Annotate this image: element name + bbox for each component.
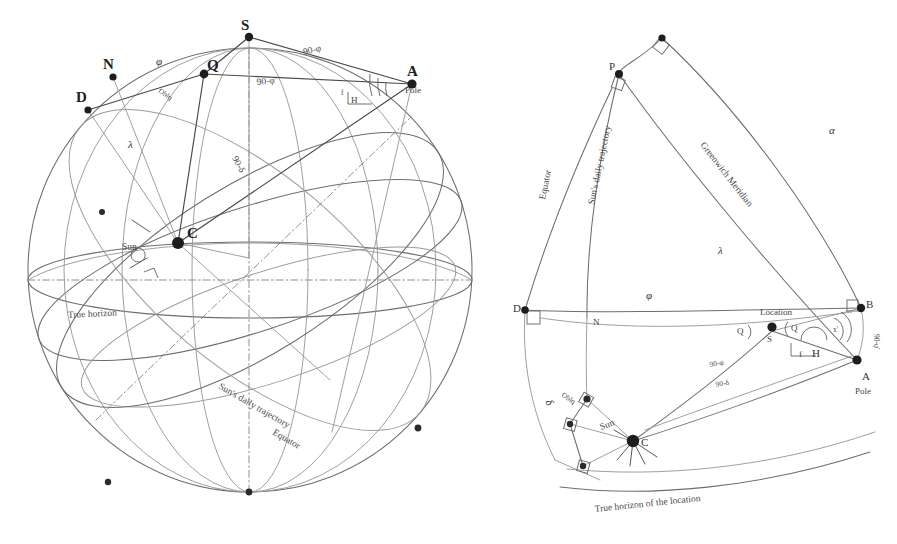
label-90-phi-left: 90-φ bbox=[302, 43, 323, 57]
point-S-right bbox=[767, 322, 776, 331]
chord-C-to-A bbox=[633, 360, 857, 441]
label-oblq-left: Oblq bbox=[157, 86, 175, 102]
sun-ray-1 bbox=[132, 220, 150, 232]
label-90-delta-left: 90-δ bbox=[230, 154, 247, 174]
label-lambda-left: λ bbox=[127, 138, 133, 150]
meridian-2 bbox=[122, 48, 378, 492]
label-equator-left: Equator bbox=[271, 427, 303, 451]
point-A-right bbox=[852, 355, 861, 364]
chord-C-center bbox=[178, 243, 249, 258]
label-phi-right: φ bbox=[646, 289, 652, 301]
label-alpha-right: α bbox=[829, 124, 835, 136]
point-D-right bbox=[521, 306, 529, 314]
point-D bbox=[84, 106, 91, 113]
point-corner2-right bbox=[580, 463, 586, 469]
true-horizon-arc-right-2 bbox=[567, 432, 875, 472]
chord-D-Q bbox=[88, 74, 204, 110]
angle-arc-icon-Q2 bbox=[785, 322, 788, 336]
chord-D-C bbox=[88, 110, 178, 243]
label-90-phi-right: 90-φ bbox=[709, 358, 725, 369]
label-delta-right: δ bbox=[543, 397, 556, 408]
chord-C-A bbox=[178, 84, 412, 243]
label-90-phi-prime-left: 90-φ' bbox=[256, 75, 277, 87]
point-apex-right bbox=[658, 34, 665, 41]
label-f-left: f bbox=[341, 88, 344, 97]
label-point-A-sub: Pole bbox=[405, 85, 421, 95]
right-angle-markers-right bbox=[527, 38, 858, 474]
obliquity-left-edge bbox=[570, 399, 587, 466]
label-point-B-right: B bbox=[866, 298, 873, 310]
meridian-1 bbox=[192, 48, 308, 492]
figure-root: S N D Q A C Pole Sun 90-φ 90-φ' 90-δ φ λ… bbox=[0, 0, 897, 544]
point-P-right bbox=[615, 70, 623, 78]
label-f-right: f bbox=[799, 349, 802, 359]
label-oblq-right: Oblq bbox=[560, 390, 578, 406]
equator-arc-lower bbox=[524, 310, 555, 460]
equator-circle bbox=[20, 142, 481, 397]
angle-arc-icon-2 bbox=[378, 78, 380, 96]
meridian-3 bbox=[64, 48, 436, 492]
label-H-right: H bbox=[812, 347, 820, 359]
label-point-Q: Q bbox=[207, 57, 219, 73]
obliquity-quad bbox=[555, 399, 633, 480]
label-sun-left: Sun bbox=[122, 242, 137, 252]
right-angle-marker-icon-D bbox=[527, 311, 540, 324]
chord-C-to-A-2 bbox=[645, 356, 852, 430]
right-angle-marker-icon-left bbox=[144, 268, 158, 278]
greenwich-meridian-lower bbox=[857, 308, 863, 360]
greenwich-meridian-arc bbox=[662, 38, 861, 308]
point-B-right bbox=[857, 304, 865, 312]
celestial-sphere-figure: S N D Q A C Pole Sun 90-φ 90-φ' 90-δ φ λ… bbox=[0, 0, 897, 544]
label-sun-right: Sun bbox=[598, 417, 616, 432]
point-obliq-right bbox=[583, 395, 590, 402]
point-corner1-right bbox=[567, 421, 573, 427]
trajectory-arc-lower bbox=[586, 318, 587, 399]
right-spherical-triangle: P D N B S A C Pole Location α λ φ Q Q 90… bbox=[513, 34, 881, 514]
oblique-axis bbox=[96, 116, 412, 420]
equator-group bbox=[20, 142, 481, 397]
label-point-C-right: C bbox=[641, 436, 648, 448]
label-equator-right: Equator bbox=[537, 168, 553, 200]
point-aux-4 bbox=[415, 425, 422, 432]
label-point-P-right: P bbox=[609, 60, 615, 72]
point-C bbox=[172, 237, 184, 249]
angle-arc-icon-Q1 bbox=[748, 325, 751, 339]
label-greenwich-meridian: Greenwich Meridian bbox=[698, 140, 755, 209]
label-x-prime-right: x' bbox=[833, 325, 839, 334]
label-lambda-right: λ bbox=[717, 244, 723, 256]
point-aux-1 bbox=[99, 209, 105, 215]
point-S bbox=[245, 33, 253, 41]
chord-N-C bbox=[113, 77, 178, 243]
label-point-A: A bbox=[407, 63, 418, 79]
label-point-A-right: A bbox=[862, 370, 870, 382]
label-point-N: N bbox=[103, 56, 114, 72]
label-point-S: S bbox=[241, 17, 249, 33]
chord-to-location bbox=[541, 312, 852, 326]
label-point-D-right: D bbox=[513, 302, 521, 314]
point-aux-2 bbox=[105, 479, 111, 485]
label-Q1-right: Q bbox=[737, 326, 744, 336]
label-point-A-sub-right: Pole bbox=[855, 386, 871, 396]
label-point-N-right: N bbox=[593, 317, 600, 327]
point-aux-3 bbox=[246, 489, 253, 496]
label-true-horizon-left: True horizon bbox=[68, 307, 118, 320]
label-90-delta-right: 90-δ bbox=[715, 378, 730, 389]
angle-arc-icon-1 bbox=[369, 74, 372, 96]
label-phi-left: φ bbox=[156, 55, 162, 67]
label-point-S-right: S bbox=[767, 334, 772, 344]
meridians bbox=[64, 48, 436, 492]
point-C-right bbox=[627, 435, 639, 447]
point-N bbox=[109, 73, 116, 80]
label-location-right: Location bbox=[760, 307, 792, 317]
label-point-D: D bbox=[76, 89, 87, 105]
chord-A-lower bbox=[332, 84, 412, 432]
label-Q2-right: Q bbox=[791, 323, 798, 333]
angle-arc-icon-H-right bbox=[801, 327, 827, 340]
label-true-horizon-location: True horizon of the location bbox=[594, 493, 701, 514]
left-celestial-sphere: S N D Q A C Pole Sun 90-φ 90-φ' 90-δ φ λ… bbox=[17, 17, 483, 495]
meridian-P-to-A bbox=[619, 74, 857, 360]
obliquity-diag-3 bbox=[583, 441, 633, 466]
chord-C-to-S bbox=[633, 331, 772, 441]
label-point-C: C bbox=[187, 225, 198, 241]
label-90-phi-prime-right: 90-φ' bbox=[872, 334, 881, 350]
